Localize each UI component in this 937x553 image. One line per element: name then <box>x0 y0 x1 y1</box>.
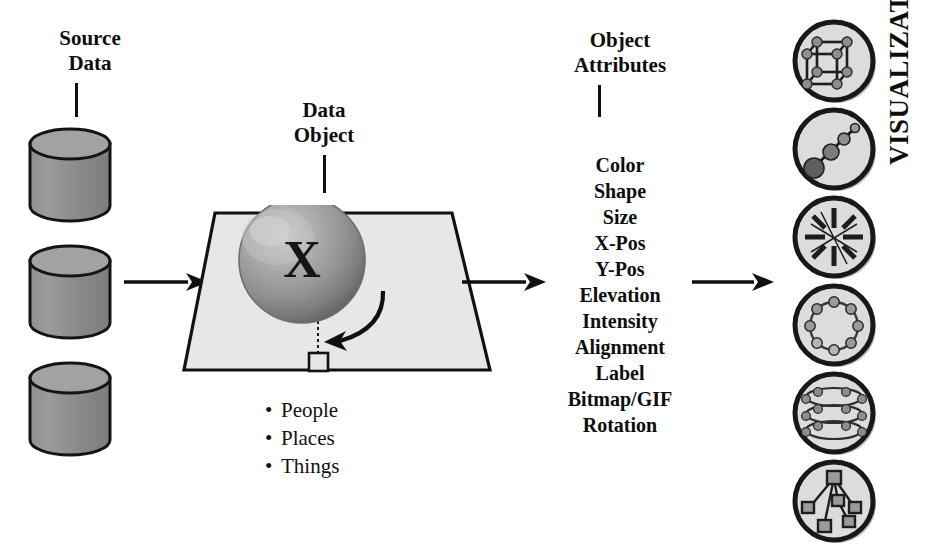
source-data-stem <box>75 83 78 117</box>
attribute-list: Color Shape Size X-Pos Y-Pos Elevation I… <box>535 152 705 438</box>
object-attributes-heading: Object Attributes <box>535 28 705 78</box>
attribute-item: X-Pos <box>535 230 705 256</box>
data-object-category-list: •People •Places •Things <box>265 396 339 480</box>
list-item: •Places <box>265 424 339 452</box>
data-object-heading-line2: Object <box>244 123 404 148</box>
list-item-label: Places <box>281 426 335 450</box>
attribute-item: Color <box>535 152 705 178</box>
source-data-heading-line2: Data <box>0 51 180 76</box>
sphere-chain-icon <box>791 106 879 194</box>
object-attributes-stem <box>598 85 601 117</box>
sphere-ring-icon <box>791 282 879 370</box>
radial-starburst-icon <box>791 194 879 282</box>
diagram-canvas: Source Data <box>0 0 937 553</box>
stacked-rings-icon <box>791 370 879 458</box>
database-cylinder <box>24 126 120 230</box>
list-item-label: People <box>281 398 338 422</box>
database-cylinder <box>24 243 120 347</box>
hierarchy-tree-icon <box>791 458 879 546</box>
bullet-icon: • <box>265 452 281 480</box>
list-item: •People <box>265 396 339 424</box>
attribute-item: Bitmap/GIF <box>535 386 705 412</box>
sphere-letter: X <box>283 231 321 288</box>
visualization-label: VISUALIZATION <box>884 0 915 165</box>
data-object-stem <box>323 155 326 193</box>
attribute-item: Intensity <box>535 308 705 334</box>
attribute-item: Size <box>535 204 705 230</box>
object-attributes-heading-line2: Attributes <box>535 53 705 78</box>
attribute-item: Y-Pos <box>535 256 705 282</box>
source-data-heading-line1: Source <box>0 26 180 51</box>
data-object-heading: Data Object <box>244 98 404 148</box>
attribute-item: Alignment <box>535 334 705 360</box>
object-attributes-heading-line1: Object <box>535 28 705 53</box>
bullet-icon: • <box>265 424 281 452</box>
attribute-item: Rotation <box>535 412 705 438</box>
cube-lattice-icon <box>791 18 879 106</box>
attribute-item: Elevation <box>535 282 705 308</box>
attribute-item: Shape <box>535 178 705 204</box>
arrow-attributes-to-visualization <box>692 268 782 300</box>
list-item-label: Things <box>281 454 339 478</box>
list-item: •Things <box>265 452 339 480</box>
bullet-icon: • <box>265 396 281 424</box>
position-marker <box>309 353 328 371</box>
source-data-heading: Source Data <box>0 26 180 76</box>
attribute-item: Label <box>535 360 705 386</box>
database-cylinder <box>24 360 120 464</box>
data-object-heading-line1: Data <box>244 98 404 123</box>
data-plane-group: X <box>170 205 500 394</box>
